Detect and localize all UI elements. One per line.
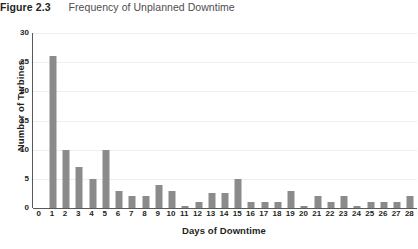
x-tick-label: 22 [325,210,334,218]
x-tick-label: 24 [352,210,361,218]
bar[interactable] [116,191,123,209]
bar-slot [205,33,218,208]
bar[interactable] [182,206,189,208]
bar-slot [298,33,311,208]
x-tick-label: 18 [273,210,282,218]
bar-slot [139,33,152,208]
bar[interactable] [102,150,109,208]
bar[interactable] [63,150,70,208]
bar[interactable] [235,179,242,208]
bar-slot [404,33,417,208]
bar[interactable] [221,193,228,208]
bar[interactable] [301,206,308,208]
bar[interactable] [380,202,387,208]
x-tick-label: 4 [89,210,93,218]
bar-slot [33,33,46,208]
x-tick-label: 0 [36,210,40,218]
y-tick-label: 10 [20,146,29,154]
bar-slot [324,33,337,208]
x-tick-label: 19 [286,210,295,218]
figure-number: Figure 2.3 [0,1,51,13]
x-tick-label: 16 [246,210,255,218]
bar-slot [232,33,245,208]
bar[interactable] [394,202,401,208]
y-axis-tick-labels: 051015202530 [8,22,29,249]
bar[interactable] [208,193,215,208]
x-tick-label: 15 [233,210,242,218]
bar-slot [377,33,390,208]
bar[interactable] [248,202,255,208]
bar[interactable] [288,191,295,209]
bar-slot [311,33,324,208]
plot-area [32,33,417,208]
bar[interactable] [195,202,202,208]
figure-title: Frequency of Unplanned Downtime [69,1,235,13]
x-tick-label: 11 [180,210,188,218]
bar[interactable] [155,185,162,208]
bar-slot [73,33,86,208]
bar-slot [351,33,364,208]
bar[interactable] [129,196,136,208]
x-tick-label: 6 [116,210,120,218]
bar-slot [59,33,72,208]
x-tick-label: 3 [76,210,80,218]
bar[interactable] [354,206,361,208]
x-tick-label: 7 [129,210,133,218]
bar-slot [126,33,139,208]
x-tick-label: 23 [339,210,348,218]
bar-slot [391,33,404,208]
y-tick-label: 25 [20,58,29,66]
x-tick-label: 14 [220,210,229,218]
bar-slot [271,33,284,208]
x-tick-label: 25 [365,210,374,218]
x-tick-label: 13 [206,210,215,218]
bar-slot [112,33,125,208]
bar-slot [285,33,298,208]
bar-slot [99,33,112,208]
bar-slot [258,33,271,208]
x-tick-label: 17 [259,210,268,218]
bar[interactable] [261,202,268,208]
bar[interactable] [327,202,334,208]
bar[interactable] [314,196,321,208]
y-tick-label: 5 [25,175,29,183]
x-tick-label: 5 [103,210,107,218]
x-tick-label: 9 [156,210,160,218]
x-tick-label: 26 [378,210,387,218]
bar-slot [364,33,377,208]
bar[interactable] [142,196,149,208]
bar-slot [165,33,178,208]
x-axis-label: Days of Downtime [32,225,416,236]
y-tick-label: 15 [20,117,29,125]
bar-series [33,33,417,208]
y-tick-label: 30 [20,29,29,37]
bar-slot [179,33,192,208]
bar[interactable] [169,191,176,209]
bar[interactable] [367,202,374,208]
bar-slot [192,33,205,208]
bar[interactable] [274,202,281,208]
bar-slot [218,33,231,208]
bar[interactable] [89,179,96,208]
figure-caption: Figure 2.3 Frequency of Unplanned Downti… [0,1,235,17]
x-tick-label: 27 [392,210,401,218]
x-tick-label: 20 [299,210,308,218]
bar[interactable] [407,196,414,208]
x-axis-tick-labels: 0123456789101112131415161718192021222324… [32,210,416,222]
x-tick-label: 28 [405,210,414,218]
x-tick-label: 21 [312,210,321,218]
bar[interactable] [76,167,83,208]
bar-slot [338,33,351,208]
bar-chart: Number of Turbines 051015202530 01234567… [0,22,418,249]
bar[interactable] [341,196,348,208]
y-tick-label: 0 [25,204,29,212]
x-tick-label: 12 [193,210,202,218]
x-tick-label: 8 [142,210,146,218]
bar-slot [46,33,59,208]
x-tick-label: 1 [50,210,54,218]
y-tick-label: 20 [20,87,29,95]
x-tick-label: 2 [63,210,67,218]
bar[interactable] [49,56,56,208]
bar-slot [86,33,99,208]
bar-slot [245,33,258,208]
